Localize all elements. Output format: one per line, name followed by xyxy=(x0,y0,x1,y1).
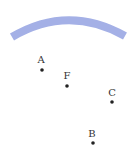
point-dot xyxy=(40,68,44,72)
arc-band xyxy=(12,20,125,37)
point-dot xyxy=(65,84,69,88)
diagram-canvas: A F C B xyxy=(0,0,131,159)
point-c: C xyxy=(108,87,116,104)
point-b: B xyxy=(88,128,95,145)
point-label: C xyxy=(108,87,116,98)
point-f: F xyxy=(64,70,71,88)
point-label: F xyxy=(64,70,71,81)
point-dot xyxy=(91,141,95,145)
point-label: A xyxy=(36,54,45,65)
point-label: B xyxy=(88,128,95,139)
point-dot xyxy=(110,100,114,104)
point-a: A xyxy=(36,54,45,72)
